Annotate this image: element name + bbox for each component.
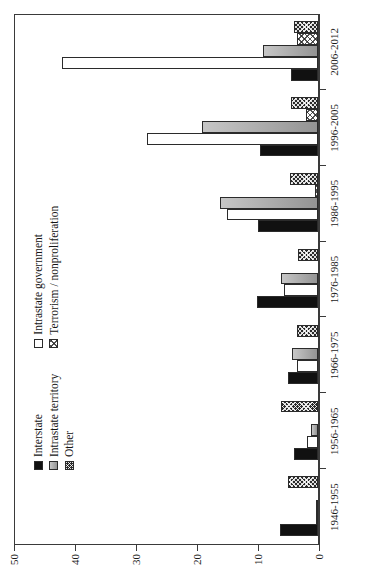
x-axis-tick: [320, 165, 326, 166]
legend-swatch-icon: [34, 339, 43, 348]
legend-entry: Terrorism / nonproliferation: [48, 206, 61, 348]
x-axis-tick: [320, 89, 326, 90]
x-axis-category-label: 1956-1965: [329, 393, 340, 469]
bar-group: [15, 477, 318, 536]
legend-column: InterstateIntrastate territoryOther: [32, 374, 76, 470]
bar: [288, 372, 319, 384]
bar: [62, 57, 318, 69]
x-axis-category-label: 1996-2005: [329, 90, 340, 166]
bar: [297, 360, 318, 372]
legend-swatch-icon: [65, 461, 74, 470]
bar: [294, 448, 318, 460]
x-axis-tick: [320, 392, 326, 393]
bar: [281, 273, 318, 285]
legend-label: Terrorism / nonproliferation: [48, 206, 61, 335]
legend-swatch-icon: [49, 339, 58, 348]
bar: [284, 284, 318, 296]
x-axis-category-label: 1986-1995: [329, 166, 340, 242]
bar: [291, 69, 318, 81]
bar: [220, 197, 318, 209]
legend-entry: Interstate: [32, 374, 45, 470]
bar: [258, 220, 318, 232]
legend-swatch-icon: [34, 461, 43, 470]
x-axis-category-label: 1946-1955: [329, 469, 340, 545]
bar: [307, 436, 318, 448]
y-axis-tick-label: 10: [253, 554, 264, 584]
legend-label: Intrastate territory: [48, 374, 61, 457]
bar: [147, 133, 318, 145]
legend-label: Intrastate government: [32, 234, 45, 335]
x-axis-tick: [320, 468, 326, 469]
bar: [306, 109, 318, 121]
x-axis-tick: [320, 241, 326, 242]
bar: [294, 21, 318, 33]
legend-swatch-icon: [49, 461, 58, 470]
bar-group: [15, 97, 318, 156]
bar: [290, 173, 318, 185]
x-axis-category-label: 1976-1985: [329, 242, 340, 318]
y-axis-tick-label: 30: [131, 554, 142, 584]
bar: [315, 185, 318, 197]
bar: [227, 209, 319, 221]
y-axis-tick: [319, 545, 320, 551]
x-axis-tick: [320, 316, 326, 317]
bar: [297, 33, 318, 45]
legend-label: Other: [63, 431, 76, 457]
y-axis-tick-label: 40: [70, 554, 81, 584]
y-axis-tick-label: 0: [314, 554, 325, 584]
bar: [298, 249, 318, 261]
bar: [280, 524, 318, 536]
y-axis-tick: [14, 545, 15, 551]
legend-entry: Intrastate government: [32, 206, 45, 348]
bar-chart-figure: 01020304050 1946-19551956-19651966-19751…: [0, 0, 370, 588]
y-axis-tick-label: 50: [9, 554, 20, 584]
bar: [288, 477, 319, 489]
bar: [260, 145, 318, 157]
bar: [311, 424, 318, 436]
bar: [316, 500, 318, 512]
bar: [202, 121, 318, 133]
y-axis-tick: [75, 545, 76, 551]
y-axis-tick-labels: 01020304050: [14, 554, 320, 588]
y-axis-tick-label: 20: [192, 554, 203, 584]
y-axis-tick: [197, 545, 198, 551]
x-axis-category-label: 2006-2012: [329, 14, 340, 90]
legend-entry: Other: [63, 374, 76, 470]
bar: [291, 97, 318, 109]
bar: [263, 45, 318, 57]
legend-entry: Intrastate territory: [48, 374, 61, 470]
y-axis-tick: [136, 545, 137, 551]
legend-label: Interstate: [32, 414, 45, 457]
bar: [292, 348, 318, 360]
y-axis-tick: [258, 545, 259, 551]
bar: [316, 512, 318, 524]
bar: [257, 296, 318, 308]
x-axis-category-label: 1966-1975: [329, 317, 340, 393]
chart-legend: InterstateIntrastate territoryOtherIntra…: [32, 206, 76, 470]
bar-group: [15, 21, 318, 80]
bar: [297, 325, 318, 337]
rotated-page-canvas: 01020304050 1946-19551956-19651966-19751…: [0, 0, 370, 588]
legend-column: Intrastate governmentTerrorism / nonprol…: [32, 206, 60, 348]
x-axis-line: [319, 14, 320, 545]
bar: [281, 401, 318, 413]
